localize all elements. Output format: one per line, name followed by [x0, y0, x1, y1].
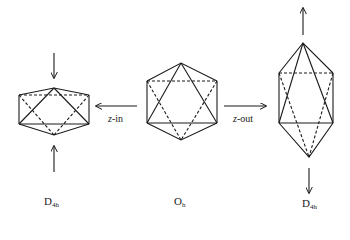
label-left-d4h: D4h — [44, 196, 59, 209]
label-center-main: O — [174, 195, 182, 207]
label-center-oh: Oh — [174, 196, 185, 209]
label-right-main: D — [302, 197, 310, 209]
z-in-suffix: -in — [112, 113, 123, 124]
z-in-label: z-in — [108, 113, 123, 124]
regular-octahedron — [147, 63, 217, 140]
label-left-sub: 4h — [52, 201, 59, 209]
label-center-sub: h — [182, 201, 186, 209]
label-right-d4h: D4h — [302, 198, 317, 211]
label-left-main: D — [44, 195, 52, 207]
elongated-octahedron — [279, 43, 333, 157]
label-right-sub: 4h — [310, 203, 317, 211]
z-out-suffix: -out — [237, 113, 253, 124]
z-out-label: z-out — [233, 113, 253, 124]
compressed-octahedron — [19, 88, 89, 135]
